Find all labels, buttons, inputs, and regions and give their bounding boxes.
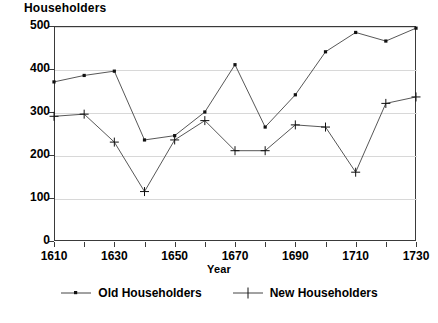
y-tick-label: 0 [43,233,50,247]
chart-container: Householders 0100200300400500 1610163016… [0,0,438,323]
legend-marker-plus-icon [232,287,264,299]
y-tick-label: 400 [30,61,50,75]
x-tick-label: 1630 [84,249,144,263]
x-tick-mark [205,242,206,247]
grid-line [55,27,417,28]
x-axis-title: Year [0,263,438,275]
x-tick-mark [356,242,357,247]
grid-line [55,113,417,114]
x-tick-label: 1690 [265,249,325,263]
chart-legend: Old Householders New Householders [0,286,438,300]
x-tick-mark [114,242,115,247]
plot-area [54,26,416,241]
y-tick-label: 200 [30,147,50,161]
x-tick-mark [235,242,236,247]
grid-line [55,199,417,200]
legend-item-new-householders: New Householders [232,286,378,300]
x-tick-label: 1670 [205,249,265,263]
grid-line [55,70,417,71]
x-tick-label: 1610 [24,249,84,263]
x-tick-label: 1650 [145,249,205,263]
x-tick-mark [326,242,327,247]
x-tick-label: 1710 [326,249,386,263]
x-tick-mark [54,242,55,247]
y-tick-label: 100 [30,190,50,204]
x-tick-mark [416,242,417,247]
x-tick-mark [84,242,85,247]
y-tick-label: 500 [30,18,50,32]
x-tick-mark [265,242,266,247]
x-tick-mark [145,242,146,247]
legend-label-old-householders: Old Householders [98,286,201,300]
x-tick-mark [295,242,296,247]
legend-label-new-householders: New Householders [270,286,378,300]
x-tick-mark [386,242,387,247]
legend-item-old-householders: Old Householders [60,286,201,300]
y-axis-title: Householders [24,1,106,15]
x-tick-mark [175,242,176,247]
legend-marker-square-dot-icon [60,287,92,299]
grid-line [55,156,417,157]
y-tick-label: 300 [30,104,50,118]
x-tick-label: 1730 [386,249,438,263]
